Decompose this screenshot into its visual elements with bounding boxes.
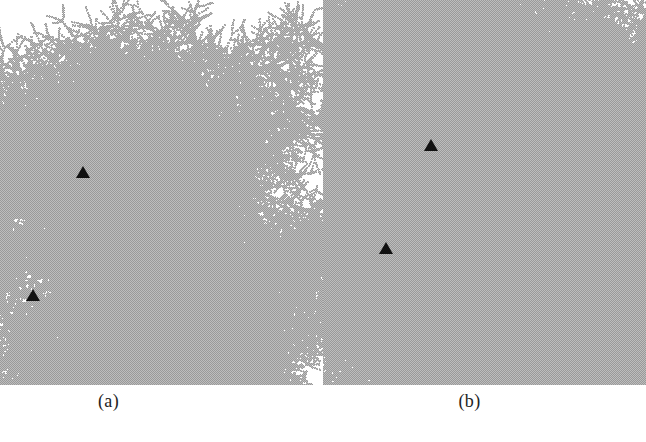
figure-root: (a) (b) [0, 0, 646, 442]
panel-a: (a) [0, 0, 323, 442]
panel-label-b: (b) [308, 391, 631, 412]
triangle-marker-a-upper [76, 166, 90, 178]
panel-b: (b) [323, 0, 646, 442]
dla-cluster-b [323, 0, 646, 385]
dla-cluster-a [0, 0, 323, 385]
triangle-marker-b-lower [379, 242, 393, 254]
panel-label-a: (a) [0, 391, 270, 412]
triangle-marker-b-upper [424, 139, 438, 151]
triangle-marker-a-lower [26, 289, 40, 301]
